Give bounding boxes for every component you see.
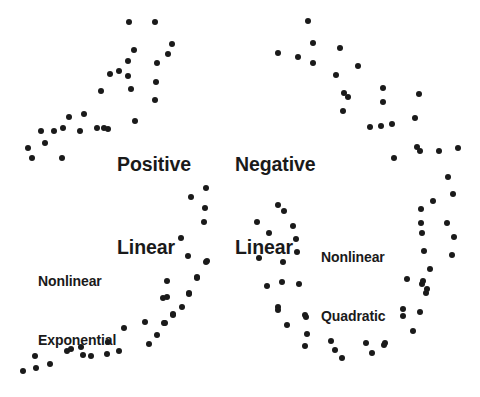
label-line-1: Nonlinear	[321, 248, 385, 268]
scatter-point	[125, 73, 131, 79]
scatter-point	[414, 144, 420, 150]
scatter-point	[451, 234, 457, 240]
scatter-point	[66, 114, 72, 120]
scatter-point	[310, 60, 316, 66]
scatter-point	[60, 125, 66, 131]
scatter-point	[275, 50, 281, 56]
scatter-point	[128, 86, 134, 92]
scatter-point	[98, 88, 104, 94]
scatter-point	[284, 322, 290, 328]
scatter-point	[404, 276, 410, 282]
scatter-point	[107, 71, 113, 77]
label-line-1: Nonlinear	[38, 272, 116, 292]
scatterplot-figure: Positive Linear Negative Linear Nonlinea…	[0, 0, 480, 397]
label-line-1: Negative	[235, 151, 316, 179]
label-nonlinear-quadratic: Nonlinear Quadratic	[321, 208, 385, 367]
label-line-2: Linear	[117, 234, 191, 262]
scatter-point	[126, 19, 132, 25]
scatter-point	[154, 60, 160, 66]
scatter-point	[25, 145, 31, 151]
scatter-point	[20, 368, 26, 374]
label-line-2: Quadratic	[321, 307, 385, 327]
scatter-point	[380, 99, 386, 105]
scatter-point	[42, 140, 48, 146]
scatter-point	[424, 286, 430, 292]
scatter-point	[355, 63, 361, 69]
scatter-point	[105, 126, 111, 132]
scatter-point	[337, 45, 343, 51]
scatter-point	[389, 121, 395, 127]
scatter-point	[427, 266, 433, 272]
scatter-point	[161, 320, 167, 326]
scatter-point	[412, 115, 418, 121]
scatter-point	[391, 155, 397, 161]
scatter-point	[59, 155, 65, 161]
scatter-point	[333, 72, 339, 78]
scatter-point	[101, 125, 107, 131]
label-line-1: Positive	[117, 151, 191, 179]
scatter-point	[436, 148, 442, 154]
scatter-point	[202, 205, 208, 211]
scatter-point	[305, 18, 311, 24]
scatter-point	[304, 331, 310, 337]
scatter-point	[169, 41, 175, 47]
scatter-point	[340, 108, 346, 114]
scatter-point	[367, 124, 373, 130]
scatter-point	[154, 332, 160, 338]
scatter-point	[165, 51, 171, 57]
scatter-point	[341, 90, 347, 96]
scatter-point	[116, 68, 122, 74]
scatter-point	[345, 94, 351, 100]
scatter-point	[142, 319, 148, 325]
scatter-point	[418, 206, 424, 212]
label-nonlinear-exponential: Nonlinear Exponential	[38, 232, 116, 391]
scatter-point	[81, 111, 87, 117]
label-negative-linear: Negative Linear	[235, 96, 316, 318]
scatter-point	[77, 128, 83, 134]
scatter-point	[194, 275, 200, 281]
scatter-point	[449, 252, 455, 258]
label-line-2: Linear	[235, 234, 316, 262]
scatter-point	[410, 328, 416, 334]
scatter-point	[310, 40, 316, 46]
scatter-point	[295, 54, 301, 60]
label-positive-linear: Positive Linear	[117, 96, 191, 318]
scatter-point	[201, 219, 207, 225]
scatter-point	[116, 348, 122, 354]
scatter-point	[444, 220, 450, 226]
scatter-point	[204, 258, 210, 264]
scatter-point	[445, 174, 451, 180]
scatter-point	[302, 343, 308, 349]
scatter-point	[416, 91, 422, 97]
scatter-point	[125, 58, 131, 64]
scatter-point	[423, 290, 429, 296]
scatter-point	[430, 198, 436, 204]
scatter-point	[146, 341, 152, 347]
label-line-2: Exponential	[38, 331, 116, 351]
scatter-point	[417, 309, 423, 315]
scatter-point	[419, 230, 425, 236]
scatter-point	[420, 278, 426, 284]
scatter-point	[38, 128, 44, 134]
scatter-point	[121, 325, 127, 331]
scatter-point	[51, 128, 57, 134]
scatter-point	[419, 281, 425, 287]
scatter-point	[455, 145, 461, 151]
scatter-point	[131, 47, 137, 53]
scatter-point	[94, 125, 100, 131]
scatter-point	[421, 248, 427, 254]
scatter-point	[153, 79, 159, 85]
scatter-point	[152, 19, 158, 25]
scatter-point	[418, 220, 424, 226]
scatter-point	[380, 85, 386, 91]
scatter-point	[378, 123, 384, 129]
scatter-point	[450, 191, 456, 197]
scatter-point	[194, 274, 200, 280]
scatter-point	[400, 306, 406, 312]
scatter-point	[400, 313, 406, 319]
scatter-point	[162, 320, 168, 326]
scatter-point	[203, 259, 209, 265]
scatter-point	[417, 148, 423, 154]
scatter-point	[203, 185, 209, 191]
scatter-point	[29, 155, 35, 161]
